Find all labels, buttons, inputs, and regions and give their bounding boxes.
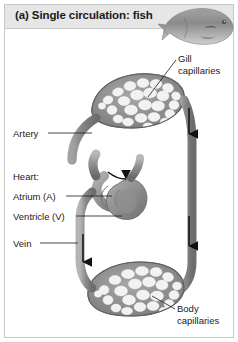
fish-illustration [158, 9, 233, 45]
gill-capillary-bed [92, 74, 184, 129]
label-ventricle: Ventricle (V) [13, 211, 65, 223]
label-artery: Artery [13, 128, 38, 140]
heart-structure [93, 154, 147, 219]
label-vein: Vein [13, 238, 32, 250]
label-gill-capillaries: Gill capillaries [178, 53, 220, 76]
body-capillary-bed [88, 262, 184, 316]
figure-panel: (a) Single circulation: fish [0, 0, 238, 342]
label-heart: Heart: [13, 171, 39, 183]
arrow-heart-in [108, 172, 126, 179]
right-vessel [178, 100, 192, 292]
vein-vessel [80, 192, 92, 288]
label-atrium: Atrium (A) [13, 191, 56, 203]
label-body-capillaries: Body capillaries [177, 303, 219, 326]
